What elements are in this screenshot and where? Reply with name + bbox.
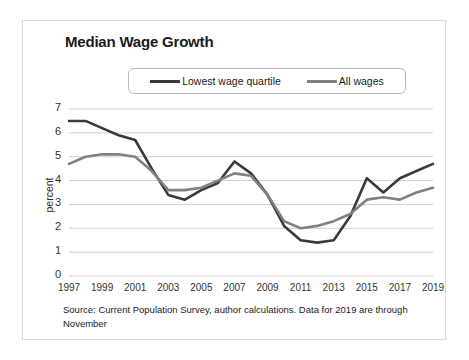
chart-figure: Median Wage Growth Lowest wage quartile … [22,20,446,340]
source-note: Source: Current Population Survey, autho… [63,303,413,331]
x-tick-label: 2003 [153,282,183,293]
y-tick-label: 2 [45,220,61,232]
x-tick-label: 2009 [253,282,283,293]
y-tick-label: 6 [45,125,61,137]
x-tick-label: 2015 [352,282,382,293]
x-tick-label: 1999 [87,282,117,293]
y-tick-label: 3 [45,196,61,208]
series-line [69,154,433,228]
y-tick-label: 7 [45,101,61,113]
x-tick-label: 1997 [54,282,84,293]
x-tick-label: 2005 [186,282,216,293]
y-tick-label: 5 [45,149,61,161]
x-tick-label: 2001 [120,282,150,293]
x-tick-label: 2013 [319,282,349,293]
series-lines [69,121,433,243]
plot-area: percent 76543210 19971999200120032005200… [23,21,447,341]
gridlines [69,109,433,276]
x-tick-label: 2007 [219,282,249,293]
series-line [69,121,433,243]
y-tick-label: 1 [45,244,61,256]
plot-svg [23,21,447,341]
y-tick-label: 4 [45,173,61,185]
y-tick-label: 0 [45,268,61,280]
x-tick-label: 2019 [418,282,448,293]
x-tick-label: 2017 [385,282,415,293]
x-tick-label: 2011 [286,282,316,293]
